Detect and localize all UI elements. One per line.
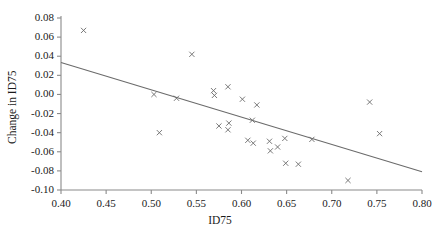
data-point-marker xyxy=(151,92,156,97)
x-tick-label: 0.50 xyxy=(129,198,173,209)
trendline xyxy=(61,62,422,171)
axes xyxy=(57,16,422,194)
data-point-marker xyxy=(226,121,231,126)
x-tick-label: 0.75 xyxy=(355,198,399,209)
y-tick-label: 0.08 xyxy=(8,12,54,23)
data-point-marker xyxy=(157,130,162,135)
data-point-marker xyxy=(251,141,256,146)
x-tick-label: 0.70 xyxy=(310,198,354,209)
y-tick-label: -0.10 xyxy=(8,184,54,195)
x-tick-label: 0.40 xyxy=(39,198,83,209)
data-point-marker xyxy=(189,52,194,57)
y-tick-label: 0.06 xyxy=(8,31,54,42)
x-tick-label: 0.80 xyxy=(400,198,440,209)
data-point-marker xyxy=(212,93,217,98)
y-axis-title: Change in ID75 xyxy=(6,71,18,144)
data-point-marker xyxy=(254,102,259,107)
data-point-marker xyxy=(245,138,250,143)
x-tick-label: 0.60 xyxy=(220,198,264,209)
data-point-marker xyxy=(275,144,280,149)
data-point-marker xyxy=(345,178,350,183)
y-tick-label: -0.08 xyxy=(8,165,54,176)
x-axis-title: ID75 xyxy=(0,214,440,226)
y-tick-label: -0.06 xyxy=(8,146,54,157)
data-point-marker xyxy=(81,28,86,33)
y-tick-label: 0.04 xyxy=(8,50,54,61)
data-point-marker xyxy=(267,139,272,144)
data-point-marker xyxy=(282,136,287,141)
data-point-marker xyxy=(377,131,382,136)
data-point-marker xyxy=(296,162,301,167)
data-point-marker xyxy=(216,123,221,128)
data-point-marker xyxy=(268,148,273,153)
scatter-chart: 0.080.060.040.020.00-0.02-0.04-0.06-0.08… xyxy=(0,0,440,240)
x-tick-label: 0.55 xyxy=(174,198,218,209)
data-point-marker xyxy=(211,88,216,93)
data-points xyxy=(81,28,382,183)
data-point-marker xyxy=(225,127,230,132)
data-point-marker xyxy=(225,84,230,89)
x-tick-label: 0.45 xyxy=(84,198,128,209)
data-point-marker xyxy=(240,97,245,102)
x-tick-label: 0.65 xyxy=(265,198,309,209)
data-point-marker xyxy=(283,161,288,166)
data-point-marker xyxy=(367,99,372,104)
